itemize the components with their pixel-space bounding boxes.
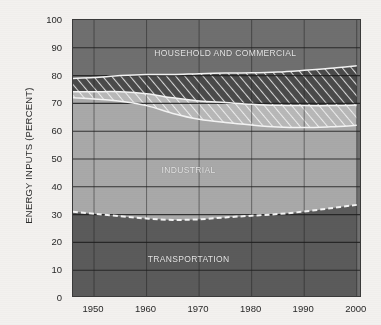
y-tick-60: 60 [0, 125, 62, 136]
band-label-household: HOUSEHOLD AND COMMERCIAL [154, 48, 296, 58]
y-tick-70: 70 [0, 97, 62, 108]
chart-figure: ENERGY INPUTS (PERCENT) 1009080706050403… [0, 0, 381, 325]
x-tick-1990: 1990 [293, 303, 314, 314]
y-tick-0: 0 [0, 292, 62, 303]
x-tick-1970: 1970 [188, 303, 209, 314]
y-tick-40: 40 [0, 180, 62, 191]
x-tick-1950: 1950 [82, 303, 103, 314]
y-tick-50: 50 [0, 153, 62, 164]
area-transportation [73, 205, 357, 297]
y-tick-20: 20 [0, 236, 62, 247]
y-tick-30: 30 [0, 208, 62, 219]
x-tick-2000: 2000 [345, 303, 366, 314]
x-tick-1960: 1960 [135, 303, 156, 314]
y-tick-10: 10 [0, 264, 62, 275]
y-tick-80: 80 [0, 69, 62, 80]
band-label-industrial: INDUSTRIAL [162, 165, 216, 175]
band-label-transportation: TRANSPORTATION [148, 254, 230, 264]
y-tick-100: 100 [0, 14, 62, 25]
y-tick-90: 90 [0, 41, 62, 52]
x-tick-1980: 1980 [240, 303, 261, 314]
plot-area: HOUSEHOLD AND COMMERCIAL INDUSTRIAL TRAN… [72, 19, 361, 297]
